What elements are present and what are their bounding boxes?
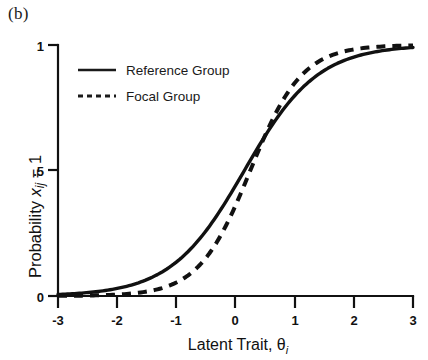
curve-focal-group — [58, 45, 413, 295]
plot-area: 1 .5 0 -3 -2 -1 0 1 2 3 Reference Group … — [0, 0, 428, 360]
curve-reference-group — [58, 47, 413, 294]
x-tick-label-2: 2 — [350, 313, 357, 328]
x-axis-title-symbol: θ — [277, 336, 286, 353]
x-tick-label-0: 0 — [231, 313, 238, 328]
x-tick-label-1: 1 — [291, 313, 298, 328]
y-tick-label-0-5: .5 — [33, 164, 44, 179]
legend-label-reference-group: Reference Group — [126, 63, 230, 78]
y-tick-label-1: 1 — [37, 39, 44, 54]
x-axis-title-main: Latent Trait, — [188, 336, 277, 353]
x-tick-label--3: -3 — [52, 313, 64, 328]
figure-panel: (b) Probability xij = 1 1 .5 0 -3 -2 -1 … — [0, 0, 428, 360]
x-axis-title: Latent Trait, θi — [188, 336, 289, 356]
x-tick-label--1: -1 — [170, 313, 182, 328]
x-axis-title-subscript: i — [286, 344, 289, 356]
x-tick-label-3: 3 — [409, 313, 416, 328]
legend: Reference Group Focal Group — [78, 63, 230, 104]
legend-label-focal-group: Focal Group — [126, 89, 200, 104]
x-tick-label--2: -2 — [111, 313, 123, 328]
y-tick-label-0: 0 — [37, 290, 44, 305]
